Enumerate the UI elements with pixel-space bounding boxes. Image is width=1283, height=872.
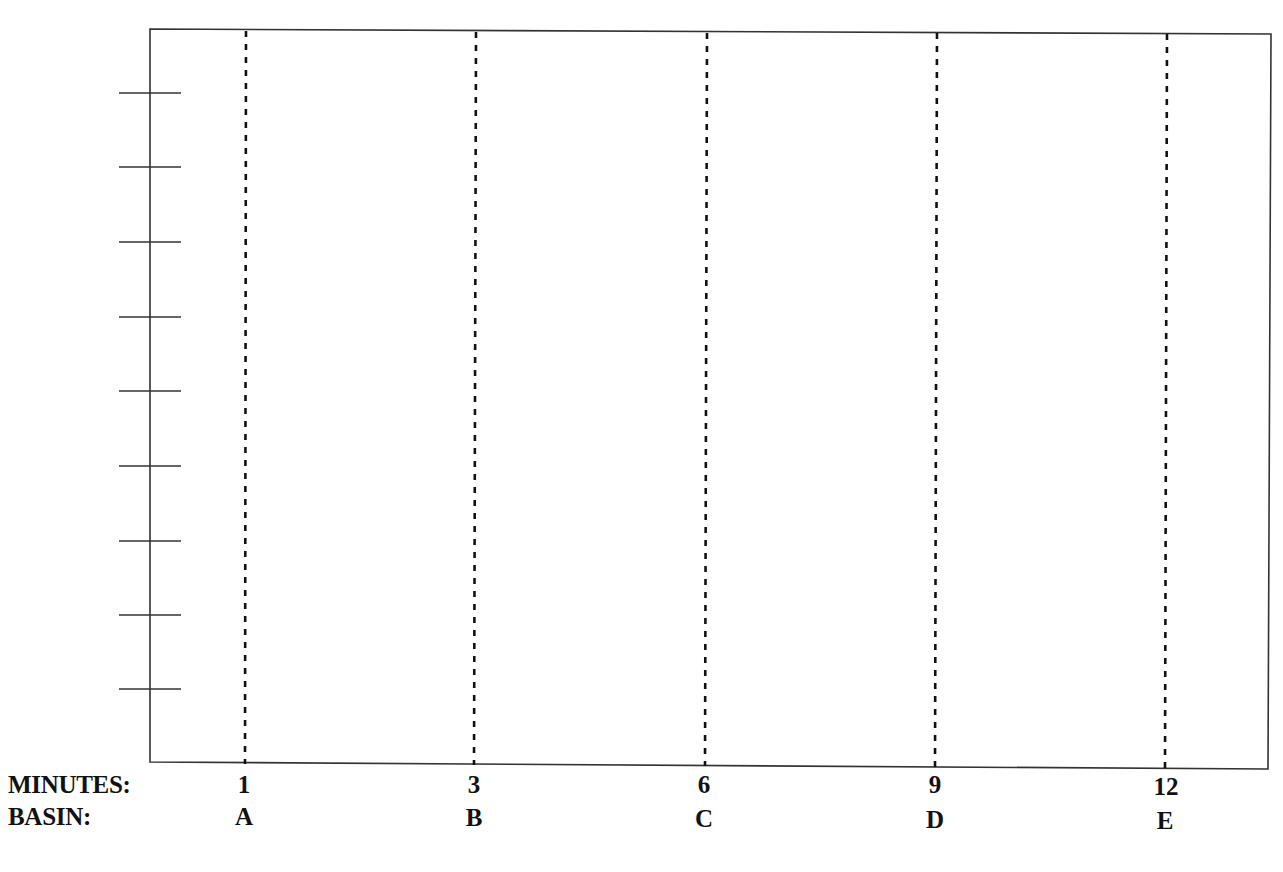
basin-tick-label: E — [1157, 808, 1174, 834]
gridline-minute-3 — [474, 32, 476, 765]
gridline-minute-12 — [1165, 34, 1167, 768]
plot-frame — [150, 29, 1271, 769]
gridline-minute-6 — [705, 33, 707, 766]
basin-row-label: BASIN: — [8, 804, 91, 830]
minute-tick-label: 6 — [698, 772, 711, 798]
gridline-minute-9 — [935, 33, 937, 767]
x-gridlines — [245, 31, 1167, 768]
minute-tick-label: 12 — [1154, 774, 1179, 800]
gridline-minute-1 — [245, 31, 246, 764]
minute-tick-label: 3 — [468, 772, 481, 798]
minute-tick-label: 9 — [929, 772, 942, 798]
basin-tick-label: B — [466, 805, 483, 831]
minute-tick-label: 1 — [238, 772, 251, 798]
basin-tick-label: A — [235, 804, 253, 830]
chart-plot-area — [0, 0, 1283, 872]
basin-tick-label: C — [695, 806, 713, 832]
minutes-row-label: MINUTES: — [8, 772, 131, 798]
basin-tick-label: D — [926, 807, 944, 833]
